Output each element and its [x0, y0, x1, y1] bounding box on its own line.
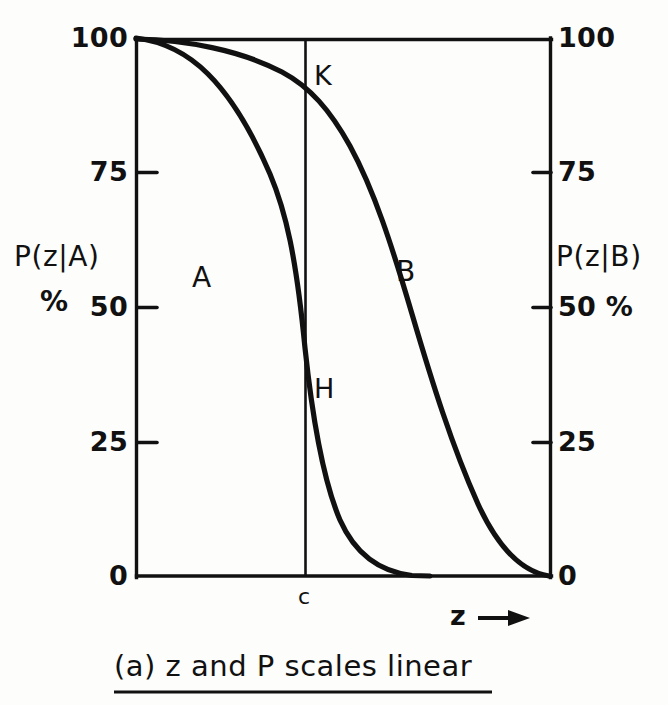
- x-axis-label-z: z: [450, 602, 466, 630]
- y-axis-left-title: P(z|A): [14, 243, 100, 272]
- curve-label-a: A: [192, 264, 211, 293]
- curve-b-path: [136, 39, 549, 576]
- point-label-h: H: [314, 375, 335, 403]
- tick-label-right-0: 0: [558, 562, 577, 590]
- x-axis-arrow-group: [478, 610, 530, 626]
- left-axis-ticks: [137, 173, 157, 443]
- y-axis-right-title: P(z|B): [556, 243, 642, 272]
- curve-label-b: B: [396, 258, 416, 287]
- tick-label-left-75: 75: [56, 158, 128, 186]
- tick-label-right-25: 25: [558, 428, 596, 456]
- y-axis-left-unit: %: [40, 288, 68, 317]
- x-axis-tick-label-c: c: [298, 586, 310, 608]
- tick-label-right-75: 75: [558, 158, 596, 186]
- tick-label-right-100: 100: [558, 24, 615, 52]
- x-axis-arrow-head: [508, 610, 530, 626]
- tick-label-left-100: 100: [56, 24, 128, 52]
- figure-drawing: [0, 0, 668, 705]
- tick-label-left-0: 0: [76, 562, 128, 590]
- figure-caption: (a) z and P scales linear: [114, 652, 472, 682]
- figure-container: 100 75 50 25 0 P(z|A) % 100 75 50 % 25 0…: [0, 0, 668, 705]
- curve-a-path: [136, 38, 430, 576]
- tick-label-left-25: 25: [56, 428, 128, 456]
- right-axis-ticks: [533, 173, 551, 443]
- plot-frame: [137, 38, 552, 578]
- point-label-k: K: [314, 62, 332, 90]
- tick-label-right-50: 50 %: [558, 293, 633, 321]
